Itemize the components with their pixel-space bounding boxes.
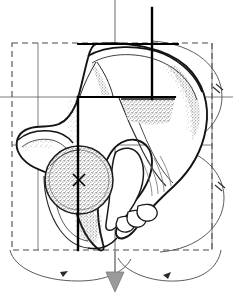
figure-canvas xyxy=(0,0,233,302)
pubic-ramus-3 xyxy=(137,204,157,221)
anatomical-construction-figure: Hip bone (os coxae) lateral view with ge… xyxy=(0,0,233,302)
